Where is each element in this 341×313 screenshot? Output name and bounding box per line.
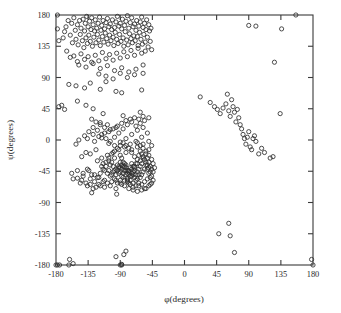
data-point (97, 15, 101, 19)
data-point (120, 66, 124, 70)
data-point (132, 73, 136, 77)
data-point (126, 43, 130, 47)
data-point (124, 137, 128, 141)
x-tick-label: -180 (48, 270, 63, 279)
data-point (228, 114, 232, 118)
data-point (127, 70, 131, 74)
data-point (124, 249, 128, 253)
data-point (127, 26, 131, 30)
data-point (208, 100, 212, 104)
data-point (235, 107, 239, 111)
x-tick-label: -90 (115, 270, 126, 279)
data-point (98, 66, 102, 70)
data-point (102, 185, 106, 189)
data-point (237, 116, 241, 120)
data-point (224, 102, 228, 106)
data-point (80, 155, 84, 159)
y-tick-label: -135 (35, 230, 50, 239)
data-point (115, 37, 119, 41)
data-point (147, 139, 151, 143)
x-tick-label: 180 (307, 270, 320, 279)
data-point (87, 33, 91, 37)
data-point (95, 159, 99, 163)
data-point (103, 31, 107, 35)
data-point (124, 150, 128, 154)
data-point (91, 107, 95, 111)
data-point (228, 234, 232, 238)
data-point (70, 171, 74, 175)
data-point (112, 43, 116, 47)
y-axis-label: ψ(degrees) (5, 120, 15, 160)
data-point (142, 118, 146, 122)
data-point (81, 171, 85, 175)
data-point (227, 109, 231, 113)
data-point (232, 250, 236, 254)
data-point (90, 191, 94, 195)
data-point (262, 150, 266, 154)
data-point (125, 14, 129, 18)
data-point (124, 19, 128, 23)
data-point (74, 84, 78, 88)
data-point (84, 150, 88, 154)
data-point (98, 43, 102, 47)
data-point (91, 23, 95, 27)
data-point (77, 138, 81, 142)
data-point (88, 177, 92, 181)
data-point (105, 16, 109, 20)
data-point (138, 110, 142, 114)
data-point (140, 15, 144, 19)
data-point (150, 48, 154, 52)
data-point (137, 117, 141, 121)
data-point (79, 52, 83, 56)
data-point (82, 86, 86, 90)
data-point (120, 121, 124, 125)
data-point (104, 74, 108, 78)
data-point (140, 135, 144, 139)
data-point (254, 24, 258, 28)
data-point (104, 80, 108, 84)
y-tick-label: 180 (37, 11, 50, 20)
data-point (125, 55, 129, 59)
data-point (114, 20, 118, 24)
data-point (240, 127, 244, 131)
data-point (88, 81, 92, 85)
x-tick-label: 135 (275, 270, 288, 279)
data-point (67, 257, 71, 261)
data-point (75, 176, 79, 180)
data-point (98, 87, 102, 91)
data-point (137, 30, 141, 34)
data-point (101, 112, 105, 116)
data-point (254, 139, 258, 143)
data-point (90, 44, 94, 48)
data-point (260, 146, 264, 150)
data-point (84, 103, 88, 107)
scatter-plot-svg: -180-135-90-4504590135180 -180-135-90-45… (0, 0, 341, 313)
data-point (221, 106, 225, 110)
data-point (135, 189, 139, 193)
data-point (115, 192, 119, 196)
data-point (125, 38, 129, 42)
data-point (145, 35, 149, 39)
data-point (72, 16, 76, 20)
data-point (100, 50, 104, 54)
data-point (112, 68, 116, 72)
x-tick-label: 90 (245, 270, 253, 279)
data-point (138, 121, 142, 125)
y-tick-label: -45 (39, 167, 50, 176)
x-tick-label: -45 (147, 270, 158, 279)
data-point (75, 168, 79, 172)
data-point (82, 134, 86, 138)
data-point (198, 95, 202, 99)
data-point (257, 152, 261, 156)
data-point (130, 16, 134, 20)
data-point (112, 156, 116, 160)
data-point (57, 39, 61, 43)
data-point (62, 107, 66, 111)
data-point (147, 116, 151, 120)
data-point (104, 57, 108, 61)
data-point (134, 124, 138, 128)
data-point (114, 89, 118, 93)
data-point (70, 21, 74, 25)
y-tick-label: 0 (46, 136, 50, 145)
data-point (132, 155, 136, 159)
